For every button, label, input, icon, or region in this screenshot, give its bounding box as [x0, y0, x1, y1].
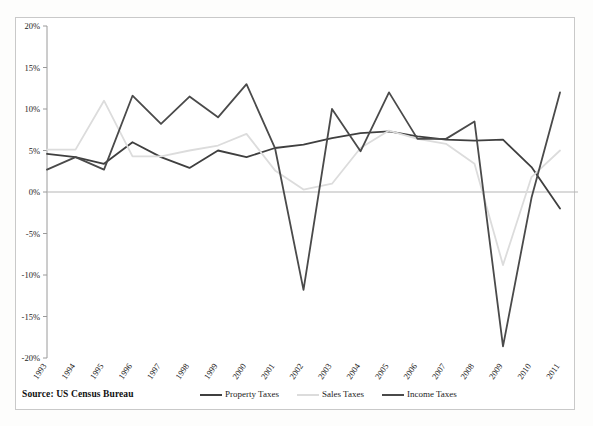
- x-tick-label: 2006: [401, 361, 419, 381]
- y-tick-label: 5%: [29, 146, 40, 156]
- y-tick-label: -20%: [22, 353, 40, 363]
- y-tick-label: -5%: [26, 229, 40, 239]
- source-note: Source: US Census Bureau: [22, 389, 134, 399]
- legend-swatch: [297, 394, 319, 396]
- x-tick-label: 1998: [173, 361, 191, 381]
- legend-label: Property Taxes: [225, 390, 279, 399]
- y-tick-label: 10%: [24, 104, 40, 114]
- legend-item[interactable]: Income Taxes: [382, 390, 457, 399]
- y-tick-labels: 20%15%10%5%0%-5%-10%-15%-20%: [22, 21, 40, 363]
- x-tick-label: 2001: [259, 361, 277, 381]
- y-tick-label: -10%: [22, 270, 40, 280]
- x-tick-label: 2005: [373, 361, 391, 381]
- series-lines: [47, 84, 560, 346]
- chart-legend: Property TaxesSales TaxesIncome Taxes: [200, 390, 457, 399]
- x-tick-label: 2009: [487, 361, 505, 381]
- x-tick-label: 2002: [287, 361, 305, 381]
- x-tick-label: 2004: [344, 361, 362, 381]
- x-tick-label: 2000: [230, 361, 248, 381]
- legend-swatch: [200, 394, 222, 396]
- x-tick-label: 2010: [515, 361, 533, 381]
- legend-label: Income Taxes: [407, 390, 457, 399]
- series-line-income-taxes: [47, 84, 560, 346]
- y-tick-label: -15%: [22, 312, 40, 322]
- y-tick-label: 0%: [29, 187, 40, 197]
- x-tick-label: 2007: [430, 361, 448, 381]
- legend-swatch: [382, 394, 404, 396]
- line-chart-svg: 20%15%10%5%0%-5%-10%-15%-20% 19931994199…: [0, 0, 593, 426]
- x-tick-label: 1993: [31, 361, 49, 381]
- x-tick-label: 2003: [316, 361, 334, 381]
- plot-area: 20%15%10%5%0%-5%-10%-15%-20% 19931994199…: [0, 0, 593, 426]
- x-tick-label: 1995: [88, 361, 106, 381]
- y-tick-label: 15%: [24, 63, 40, 73]
- x-tick-label: 1994: [59, 361, 77, 381]
- x-tick-labels: 1993199419951996199719981999200020012002…: [31, 361, 562, 381]
- y-tick-label: 20%: [24, 21, 40, 31]
- legend-item[interactable]: Property Taxes: [200, 390, 279, 399]
- x-tick-label: 1999: [202, 361, 220, 381]
- x-tick-label: 2008: [458, 361, 476, 381]
- x-tick-label: 2011: [544, 361, 562, 380]
- x-tick-label: 1997: [145, 361, 163, 381]
- legend-label: Sales Taxes: [322, 390, 364, 399]
- chart-figure: 20%15%10%5%0%-5%-10%-15%-20% 19931994199…: [0, 0, 593, 426]
- x-tick-label: 1996: [116, 361, 134, 381]
- legend-item[interactable]: Sales Taxes: [297, 390, 364, 399]
